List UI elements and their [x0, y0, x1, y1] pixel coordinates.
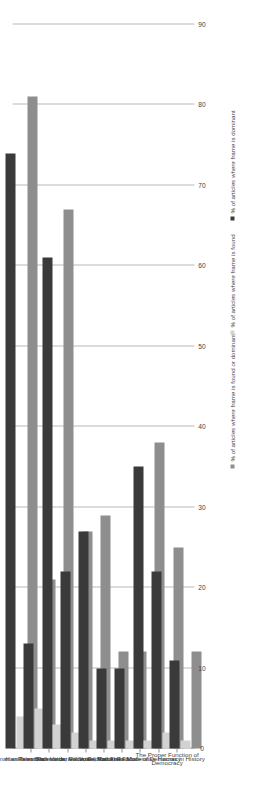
- value-tick-label: 10: [192, 664, 212, 671]
- value-tick-label: 90: [192, 21, 212, 28]
- category-label: Hamas in History: [135, 754, 227, 762]
- legend-item: % of articles where frame is found: [228, 234, 236, 334]
- legend-swatch: [230, 464, 234, 468]
- category-tick: [85, 748, 86, 752]
- value-tick-label: 60: [192, 262, 212, 269]
- bar-dominant: [60, 571, 70, 748]
- bar-group: [176, 24, 194, 748]
- category-tick: [103, 748, 104, 752]
- value-tick-label: 20: [192, 584, 212, 591]
- value-tick-label: 0: [192, 745, 212, 752]
- rotated-figure: Hamas as TerroristsHamas as BackwardsPal…: [0, 0, 253, 786]
- bar-dominant: [5, 153, 15, 748]
- legend-swatch: [230, 216, 234, 220]
- bar-dominant: [96, 668, 106, 748]
- bar-group: [103, 24, 121, 748]
- bar-dominant: [78, 531, 88, 748]
- value-tick-label: 70: [192, 181, 212, 188]
- category-tick: [67, 748, 68, 752]
- value-tick-label: 30: [192, 503, 212, 510]
- category-tick: [48, 748, 49, 752]
- legend-item: % of articles where frame is found or do…: [228, 333, 236, 468]
- legend-label: % of articles where frame is dominant: [229, 110, 236, 213]
- legend-label: % of articles where frame is found: [229, 234, 236, 327]
- category-tick: [30, 748, 31, 752]
- value-tick-label: 40: [192, 423, 212, 430]
- bar-dominant: [151, 571, 161, 748]
- bar-group: [12, 24, 30, 748]
- bar-dominant: [169, 660, 179, 748]
- bar-dominant: [42, 257, 52, 748]
- value-tick-label: 50: [192, 342, 212, 349]
- chart-canvas: Hamas as TerroristsHamas as BackwardsPal…: [0, 0, 253, 786]
- legend-label: % of articles where frame is found or do…: [229, 333, 236, 461]
- legend-item: % of articles where frame is dominant: [228, 110, 236, 220]
- bar-dominant: [133, 466, 143, 748]
- bar-dominant: [114, 668, 124, 748]
- value-tick-label: 80: [192, 101, 212, 108]
- bar-dominant: [23, 643, 33, 748]
- plot-area: [12, 24, 194, 748]
- bar-found: [180, 740, 190, 748]
- bar-group: [85, 24, 103, 748]
- legend-swatch: [230, 330, 234, 334]
- bar-group: [158, 24, 176, 748]
